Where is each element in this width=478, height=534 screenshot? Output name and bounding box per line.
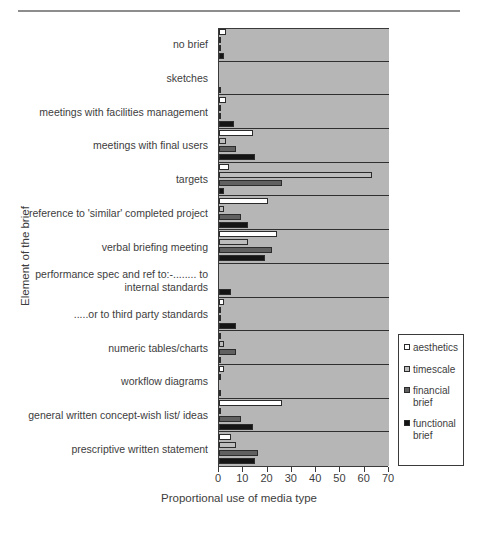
bar-functional-brief bbox=[219, 458, 255, 464]
legend-swatch-icon bbox=[404, 387, 410, 393]
category-label: reference to 'similar' completed project bbox=[2, 207, 208, 220]
chart-legend: aestheticstimescalefinancial brieffuncti… bbox=[398, 334, 464, 466]
category-label: numeric tables/charts bbox=[2, 342, 208, 355]
category-labels: no briefsketchesmeetings with facilities… bbox=[0, 28, 214, 466]
bar-rows-container bbox=[219, 28, 389, 466]
bar-group-row bbox=[219, 62, 389, 96]
x-tick-label: 50 bbox=[327, 472, 351, 484]
bar-timescale bbox=[219, 206, 224, 212]
legend-swatch-icon bbox=[404, 344, 410, 350]
category-label: performance spec and ref to:-........ to… bbox=[2, 268, 208, 293]
bar-timescale bbox=[219, 374, 221, 380]
bar-group-row bbox=[219, 28, 389, 62]
category-label: .....or to third party standards bbox=[2, 308, 208, 321]
x-tick-label: 70 bbox=[376, 472, 400, 484]
x-tick-label: 10 bbox=[230, 472, 254, 484]
x-axis-title: Proportional use of media type bbox=[0, 492, 478, 504]
bar-functional-brief bbox=[219, 357, 221, 363]
bar-financial-brief bbox=[219, 113, 221, 119]
category-label: general written concept-wish list/ ideas bbox=[2, 409, 208, 422]
legend-swatch-icon bbox=[404, 366, 410, 372]
bar-functional-brief bbox=[219, 289, 231, 295]
bar-functional-brief bbox=[219, 390, 221, 396]
bar-timescale bbox=[219, 37, 221, 43]
category-label: prescriptive written statement bbox=[2, 443, 208, 456]
bar-functional-brief bbox=[219, 87, 221, 93]
bar-group-row bbox=[219, 264, 389, 298]
bar-financial-brief bbox=[219, 180, 282, 186]
bar-timescale bbox=[219, 408, 221, 414]
bar-group-row bbox=[219, 331, 389, 365]
category-label: verbal briefing meeting bbox=[2, 241, 208, 254]
x-tick-labels: 010203040506070 bbox=[200, 472, 410, 488]
bar-aesthetics bbox=[219, 97, 226, 103]
bar-financial-brief bbox=[219, 450, 258, 456]
bar-group-row bbox=[219, 163, 389, 197]
bar-financial-brief bbox=[219, 416, 241, 422]
category-label: sketches bbox=[2, 72, 208, 85]
category-label: targets bbox=[2, 173, 208, 186]
bar-aesthetics bbox=[219, 130, 253, 136]
bar-functional-brief bbox=[219, 255, 265, 261]
bar-financial-brief bbox=[219, 214, 241, 220]
bar-timescale bbox=[219, 341, 224, 347]
legend-label: aesthetics bbox=[413, 342, 463, 354]
bar-timescale bbox=[219, 442, 236, 448]
bar-functional-brief bbox=[219, 154, 255, 160]
bar-functional-brief bbox=[219, 323, 236, 329]
bar-financial-brief bbox=[219, 146, 236, 152]
x-tick-label: 20 bbox=[255, 472, 279, 484]
bar-functional-brief bbox=[219, 222, 248, 228]
bar-aesthetics bbox=[219, 434, 231, 440]
bar-group-row bbox=[219, 129, 389, 163]
legend-item: aesthetics bbox=[404, 342, 463, 354]
bar-aesthetics bbox=[219, 299, 224, 305]
x-tick-label: 30 bbox=[279, 472, 303, 484]
bar-group-row bbox=[219, 196, 389, 230]
bar-aesthetics bbox=[219, 231, 277, 237]
bar-group-row bbox=[219, 432, 389, 466]
bar-financial-brief bbox=[219, 315, 221, 321]
bar-aesthetics bbox=[219, 400, 282, 406]
bar-timescale bbox=[219, 172, 372, 178]
legend-label: timescale bbox=[413, 364, 463, 376]
bar-group-row bbox=[219, 230, 389, 264]
bar-functional-brief bbox=[219, 53, 224, 59]
bar-financial-brief bbox=[219, 349, 236, 355]
bar-financial-brief bbox=[219, 45, 221, 51]
y-axis-title: Element of the brief bbox=[19, 161, 31, 351]
category-label: meetings with final users bbox=[2, 139, 208, 152]
legend-item: timescale bbox=[404, 364, 463, 376]
bar-functional-brief bbox=[219, 188, 224, 194]
bar-group-row bbox=[219, 365, 389, 399]
legend-item: functional brief bbox=[404, 418, 463, 441]
bar-aesthetics bbox=[219, 198, 268, 204]
bar-group-row bbox=[219, 399, 389, 433]
bar-group-row bbox=[219, 298, 389, 332]
bar-timescale bbox=[219, 239, 248, 245]
plot-area bbox=[218, 28, 389, 466]
x-tick-label: 60 bbox=[352, 472, 376, 484]
legend-swatch-icon bbox=[404, 420, 410, 426]
bar-aesthetics bbox=[219, 333, 221, 339]
bar-financial-brief bbox=[219, 247, 272, 253]
legend-label: financial brief bbox=[413, 385, 463, 408]
category-label: workflow diagrams bbox=[2, 375, 208, 388]
x-tick-label: 0 bbox=[206, 472, 230, 484]
bar-timescale bbox=[219, 307, 221, 313]
bar-chart-figure: no briefsketchesmeetings with facilities… bbox=[0, 0, 478, 534]
legend-item: financial brief bbox=[404, 385, 463, 408]
category-label: no brief bbox=[2, 38, 208, 51]
bar-functional-brief bbox=[219, 121, 234, 127]
bar-timescale bbox=[219, 138, 226, 144]
bar-group-row bbox=[219, 95, 389, 129]
bar-aesthetics bbox=[219, 164, 229, 170]
x-tick-label: 40 bbox=[303, 472, 327, 484]
bar-functional-brief bbox=[219, 424, 253, 430]
legend-label: functional brief bbox=[413, 418, 463, 441]
bar-aesthetics bbox=[219, 366, 224, 372]
bar-aesthetics bbox=[219, 29, 226, 35]
category-label: meetings with facilities management bbox=[2, 106, 208, 119]
bar-timescale bbox=[219, 105, 221, 111]
